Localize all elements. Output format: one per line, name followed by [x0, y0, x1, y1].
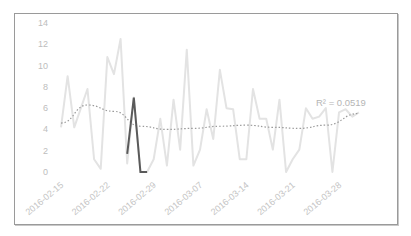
r-squared-annotation: R² = 0.0519 [316, 97, 366, 108]
x-axis: 2016-02-152016-02-222016-02-292016-03-07… [24, 180, 344, 217]
x-tick-label: 2016-02-22 [70, 180, 112, 217]
y-axis: 02468101214 [38, 18, 48, 177]
x-tick-label: 2016-03-07 [163, 180, 205, 217]
x-tick-label: 2016-03-21 [255, 180, 297, 217]
y-tick-label: 4 [43, 124, 48, 134]
y-tick-label: 6 [43, 103, 48, 113]
x-tick-label: 2016-02-15 [24, 180, 66, 217]
highlighted-segment [127, 98, 147, 172]
y-tick-label: 12 [38, 39, 48, 49]
plot-area [61, 39, 359, 172]
y-tick-label: 10 [38, 61, 48, 71]
y-tick-label: 8 [43, 82, 48, 92]
x-tick-label: 2016-02-29 [116, 180, 158, 217]
series-line [61, 39, 359, 172]
x-tick-label: 2016-03-14 [209, 180, 251, 217]
y-tick-label: 2 [43, 146, 48, 156]
y-tick-label: 0 [43, 167, 48, 177]
x-tick-label: 2016-03-28 [302, 180, 344, 217]
line-chart: 02468101214 2016-02-152016-02-222016-02-… [0, 0, 411, 236]
y-tick-label: 14 [38, 18, 48, 28]
